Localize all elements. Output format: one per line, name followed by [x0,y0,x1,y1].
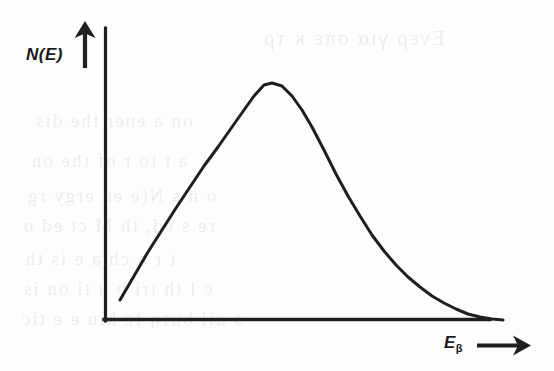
up-arrow-icon [75,21,96,68]
spectrum-curve [120,83,503,320]
right-arrow-icon [477,336,531,356]
plot-canvas [0,0,554,371]
x-axis-label: Eβ [444,333,463,354]
x-axis-label-symbol: E [444,333,456,352]
y-axis-label: N(E) [26,45,63,65]
x-axis-label-subscript: β [456,342,463,354]
beta-spectrum-figure: Ενερ για σπε κ τρon a ener the disa t to… [0,0,554,371]
